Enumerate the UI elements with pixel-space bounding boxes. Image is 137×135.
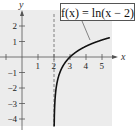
x-tick-label: 4 — [84, 61, 89, 71]
x-axis-label: x — [120, 51, 126, 62]
y-tick-label: 1 — [13, 37, 18, 47]
y-axis-label: y — [18, 0, 24, 10]
function-label: f(x) = ln(x − 2) — [61, 6, 134, 20]
y-tick-label: 2 — [13, 21, 18, 31]
x-axis-arrow-icon — [112, 55, 118, 59]
y-tick-label: −3 — [7, 99, 17, 109]
function-label-box: f(x) = ln(x − 2) — [60, 3, 135, 21]
x-tick-label: 3 — [68, 61, 73, 71]
y-tick-label: −2 — [7, 83, 17, 93]
y-tick-label: −1 — [7, 68, 17, 78]
y-tick-label: −4 — [7, 114, 17, 124]
x-tick-label: 1 — [36, 61, 41, 71]
x-tick-label: 5 — [100, 61, 105, 71]
